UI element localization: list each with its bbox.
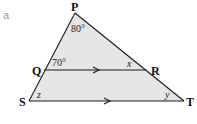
vertex-label-Q: Q xyxy=(32,64,41,78)
angle-label-z: z xyxy=(36,89,41,100)
angle-label-y: y xyxy=(164,89,170,100)
vertex-label-R: R xyxy=(151,64,160,78)
angle-label-PQR: 70° xyxy=(52,57,66,68)
angle-label-x: x xyxy=(126,58,132,69)
vertex-label-T: T xyxy=(186,95,194,109)
vertex-label-P: P xyxy=(71,0,78,14)
triangle-diagram: P Q R S T 80° 70° x z y xyxy=(0,0,197,124)
vertex-label-S: S xyxy=(19,95,26,109)
angle-label-P: 80° xyxy=(71,23,85,34)
